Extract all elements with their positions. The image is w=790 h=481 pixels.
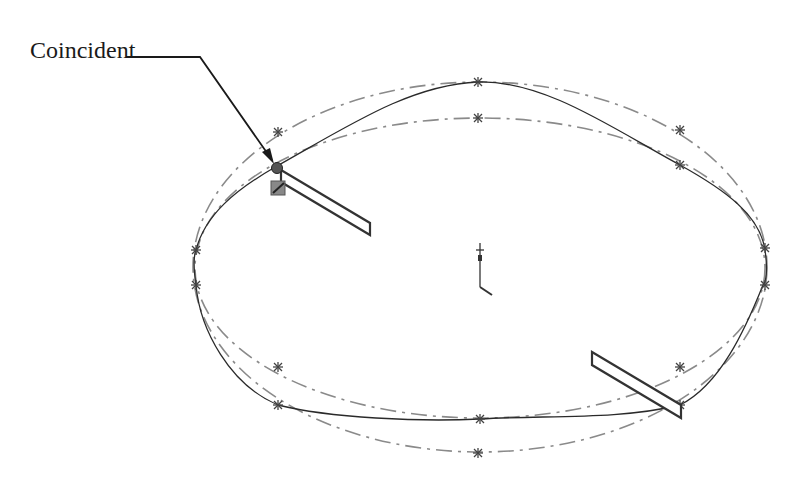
spline-point-marker[interactable] [473,113,483,123]
spline-point-marker[interactable] [760,280,770,290]
coincident-callout-label: Coincident [30,38,135,62]
spline-point-marker[interactable] [273,400,283,410]
callout-leader [126,57,274,164]
spline-point-marker[interactable] [475,414,485,424]
coincident-point[interactable] [272,163,283,174]
spline-point-marker[interactable] [675,160,685,170]
spline-point-marker[interactable] [473,448,483,458]
spline-point-marker[interactable] [273,127,283,137]
spline-handle-top-left[interactable] [281,170,370,235]
spline-point-marker[interactable] [191,245,201,255]
origin-icon [476,243,492,295]
spline-point-marker[interactable] [760,243,770,253]
spline-point-marker[interactable] [675,362,685,372]
spline-point-marker[interactable] [273,362,283,372]
sketch-canvas[interactable] [0,0,790,481]
spline-point-marker[interactable] [191,280,201,290]
spline-point-marker[interactable] [473,77,483,87]
coincident-relation-icon[interactable] [271,181,285,195]
spline-point-marker[interactable] [675,125,685,135]
spline-handle-bottom-right[interactable] [592,352,681,418]
